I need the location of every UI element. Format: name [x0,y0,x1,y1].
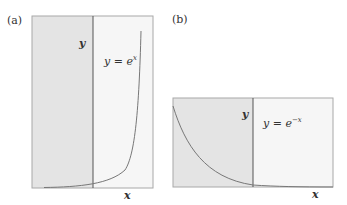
panel-b-x-axis-label: x [312,188,319,201]
panel-a [32,16,153,188]
panel-a-label: (a) [7,14,22,27]
panel-b-exponent: −x [292,116,302,124]
panel-b-label: (b) [172,13,188,26]
panel-a-y-axis-label: y [79,37,85,50]
panel-b-y-axis-label: y [242,108,248,121]
panel-b-equation: y = e−x [263,116,302,130]
panel-b-equation-base: y = e [263,117,292,130]
panel-b-left-region [173,98,253,187]
panel-b-right-region [253,98,333,187]
panel-a-exponent: x [133,54,137,62]
panel-a-x-axis-label: x [124,189,131,202]
panel-b [173,98,333,187]
panel-a-right-region [93,16,153,188]
panel-a-equation: y = ex [104,54,137,68]
panel-a-equation-base: y = e [104,55,133,68]
diagram-canvas [0,0,347,205]
